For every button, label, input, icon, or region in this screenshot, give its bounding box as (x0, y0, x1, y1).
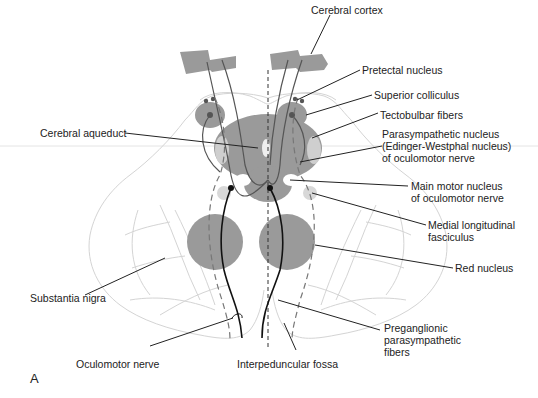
panel-letter: A (30, 371, 39, 386)
label-cerebral-aqueduct: Cerebral aqueduct (40, 127, 126, 139)
label-parasympathetic-nucleus: Parasympathetic nucleus (Edinger-Westpha… (382, 128, 511, 164)
lateral-pale-area-left (215, 136, 229, 164)
label-red-nucleus: Red nucleus (455, 262, 513, 274)
label-oculomotor-nerve: Oculomotor nerve (76, 358, 159, 370)
red-nucleus-left (187, 214, 243, 270)
label-substantia-nigra: Substantia nigra (30, 292, 106, 304)
nerve-loop (232, 314, 242, 318)
cerebral-aqueduct (262, 139, 270, 157)
label-superior-colliculus: Superior colliculus (374, 89, 459, 101)
label-cerebral-cortex: Cerebral cortex (311, 4, 383, 16)
cerebral-cortex-left (180, 50, 236, 74)
neuron-dot (228, 185, 234, 191)
label-interpeduncular-fossa: Interpeduncular fossa (237, 358, 338, 370)
label-medial-longitudinal-fasciculus: Medial longitudinal fasciculus (428, 219, 515, 243)
label-preganglionic-fibers: Preganglionic parasympathetic fibers (384, 322, 461, 358)
red-nucleus-right (259, 214, 315, 270)
label-tectobulbar-fibers: Tectobulbar fibers (380, 109, 463, 121)
label-main-motor-nucleus: Main motor nucleus of oculomotor nerve (411, 180, 504, 204)
mlf-right (303, 186, 317, 200)
label-pretectal-nucleus: Pretectal nucleus (362, 64, 443, 76)
neuron-dot (267, 185, 273, 191)
